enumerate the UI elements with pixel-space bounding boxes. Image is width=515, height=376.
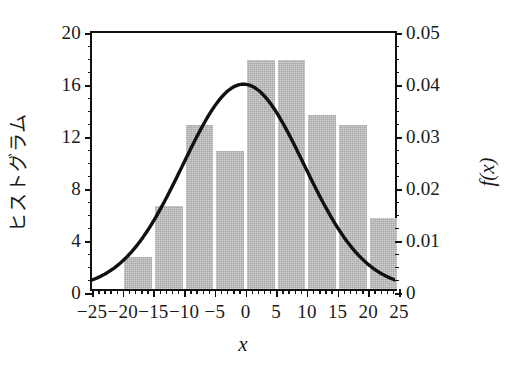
x-minor-tick <box>233 289 234 294</box>
y-right-tick-label: 0 <box>406 282 416 304</box>
x-minor-tick <box>221 289 222 294</box>
x-minor-tick <box>190 289 191 294</box>
y-right-minor-tick <box>395 59 399 60</box>
x-major-tick <box>215 289 217 297</box>
y-right-minor-tick <box>395 176 399 177</box>
y-left-minor-tick <box>88 280 92 281</box>
y-right-minor-tick <box>395 124 399 125</box>
x-minor-tick <box>362 289 363 294</box>
y-left-minor-tick <box>88 254 92 255</box>
x-minor-tick <box>350 289 351 294</box>
y-left-major-tick <box>85 189 92 191</box>
y-left-minor-tick <box>88 163 92 164</box>
y-left-major-tick <box>85 85 92 87</box>
x-axis-title: x <box>238 332 247 357</box>
y-left-minor-tick <box>88 202 92 203</box>
x-major-tick <box>368 289 370 297</box>
y-left-tick-label: 8 <box>71 178 81 200</box>
x-minor-tick <box>331 289 332 294</box>
x-minor-tick <box>110 289 111 294</box>
x-minor-tick <box>387 289 388 294</box>
x-minor-tick <box>203 289 204 294</box>
y-left-minor-tick <box>88 98 92 99</box>
y-axis-left-title: ヒストグラム <box>3 113 30 232</box>
x-major-tick <box>276 289 278 297</box>
y-right-tick-label: 0.01 <box>406 230 440 252</box>
y-right-minor-tick <box>395 98 399 99</box>
x-minor-tick <box>264 289 265 294</box>
y-left-tick-label: 20 <box>62 22 81 44</box>
y-left-minor-tick <box>88 228 92 229</box>
y-right-minor-tick <box>395 46 399 47</box>
x-minor-tick <box>319 289 320 294</box>
x-minor-tick <box>178 289 179 294</box>
x-major-tick <box>246 289 248 297</box>
figure: ヒストグラム f(x) x −25−20−15−10−5051015202504… <box>0 0 515 376</box>
y-right-tick-label: 0.02 <box>406 178 440 200</box>
x-major-tick <box>184 289 186 297</box>
y-left-minor-tick <box>88 46 92 47</box>
x-minor-tick <box>196 289 197 294</box>
y-right-major-tick <box>395 137 402 139</box>
normal-pdf-curve <box>92 33 395 289</box>
x-minor-tick <box>160 289 161 294</box>
x-minor-tick <box>129 289 130 294</box>
y-right-tick-label: 0.05 <box>406 22 440 44</box>
x-major-tick <box>123 289 125 297</box>
x-tick-label: 0 <box>241 301 251 323</box>
x-minor-tick <box>227 289 228 294</box>
x-tick-label: −15 <box>138 301 168 323</box>
y-left-major-tick <box>85 293 92 295</box>
x-minor-tick <box>252 289 253 294</box>
y-right-major-tick <box>395 293 402 295</box>
x-minor-tick <box>141 289 142 294</box>
x-major-tick <box>338 289 340 297</box>
y-right-major-tick <box>395 241 402 243</box>
y-left-minor-tick <box>88 176 92 177</box>
y-left-tick-label: 12 <box>62 126 81 148</box>
y-left-tick-label: 0 <box>71 282 81 304</box>
y-left-minor-tick <box>88 267 92 268</box>
x-minor-tick <box>104 289 105 294</box>
y-left-minor-tick <box>88 72 92 73</box>
y-left-major-tick <box>85 137 92 139</box>
x-major-tick <box>307 289 309 297</box>
y-right-minor-tick <box>395 150 399 151</box>
x-minor-tick <box>135 289 136 294</box>
x-tick-label: 15 <box>328 301 347 323</box>
x-major-tick <box>92 289 94 297</box>
x-minor-tick <box>295 289 296 294</box>
x-minor-tick <box>325 289 326 294</box>
plot-area: −25−20−15−10−5051015202504812162000.010.… <box>90 31 397 291</box>
y-right-minor-tick <box>395 267 399 268</box>
x-major-tick <box>153 289 155 297</box>
x-tick-label: 5 <box>271 301 281 323</box>
y-left-major-tick <box>85 33 92 35</box>
x-minor-tick <box>172 289 173 294</box>
y-axis-right-title: f(x) <box>475 157 500 186</box>
y-right-major-tick <box>395 85 402 87</box>
y-left-tick-label: 4 <box>71 230 81 252</box>
x-tick-label: 25 <box>389 301 408 323</box>
y-left-tick-label: 16 <box>62 74 81 96</box>
y-right-minor-tick <box>395 111 399 112</box>
y-right-minor-tick <box>395 280 399 281</box>
x-tick-label: −20 <box>108 301 138 323</box>
y-right-minor-tick <box>395 202 399 203</box>
x-minor-tick <box>356 289 357 294</box>
x-minor-tick <box>313 289 314 294</box>
y-right-tick-label: 0.03 <box>406 126 440 148</box>
x-minor-tick <box>258 289 259 294</box>
x-tick-label: −5 <box>204 301 225 323</box>
x-minor-tick <box>147 289 148 294</box>
x-minor-tick <box>301 289 302 294</box>
x-minor-tick <box>166 289 167 294</box>
x-tick-label: −25 <box>77 301 107 323</box>
x-minor-tick <box>98 289 99 294</box>
y-left-minor-tick <box>88 111 92 112</box>
x-minor-tick <box>288 289 289 294</box>
x-minor-tick <box>282 289 283 294</box>
y-right-minor-tick <box>395 72 399 73</box>
y-right-major-tick <box>395 33 402 35</box>
y-left-minor-tick <box>88 150 92 151</box>
